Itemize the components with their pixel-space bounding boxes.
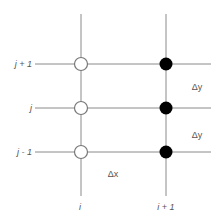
open-node-i-j-minus-1 bbox=[75, 146, 88, 159]
delta-x-label: Δx bbox=[108, 169, 119, 179]
row-label-j-plus-1: j + 1 bbox=[14, 59, 32, 69]
delta-y-label-lower: Δy bbox=[192, 130, 203, 140]
filled-node-i-plus-1-j bbox=[160, 102, 173, 115]
delta-y-label-upper: Δy bbox=[192, 82, 203, 92]
open-node-i-j-plus-1 bbox=[75, 58, 88, 71]
grid-diagram: j + 1 j j - 1 i i + 1 Δy Δy Δx bbox=[0, 0, 218, 222]
column-label-i-plus-1: i + 1 bbox=[157, 202, 174, 212]
filled-node-i-plus-1-j-minus-1 bbox=[160, 146, 173, 159]
row-label-j: j bbox=[29, 103, 33, 113]
row-label-j-minus-1: j - 1 bbox=[16, 147, 32, 157]
open-node-i-j bbox=[75, 102, 88, 115]
filled-node-i-plus-1-j-plus-1 bbox=[160, 58, 173, 71]
column-label-i: i bbox=[79, 202, 82, 212]
